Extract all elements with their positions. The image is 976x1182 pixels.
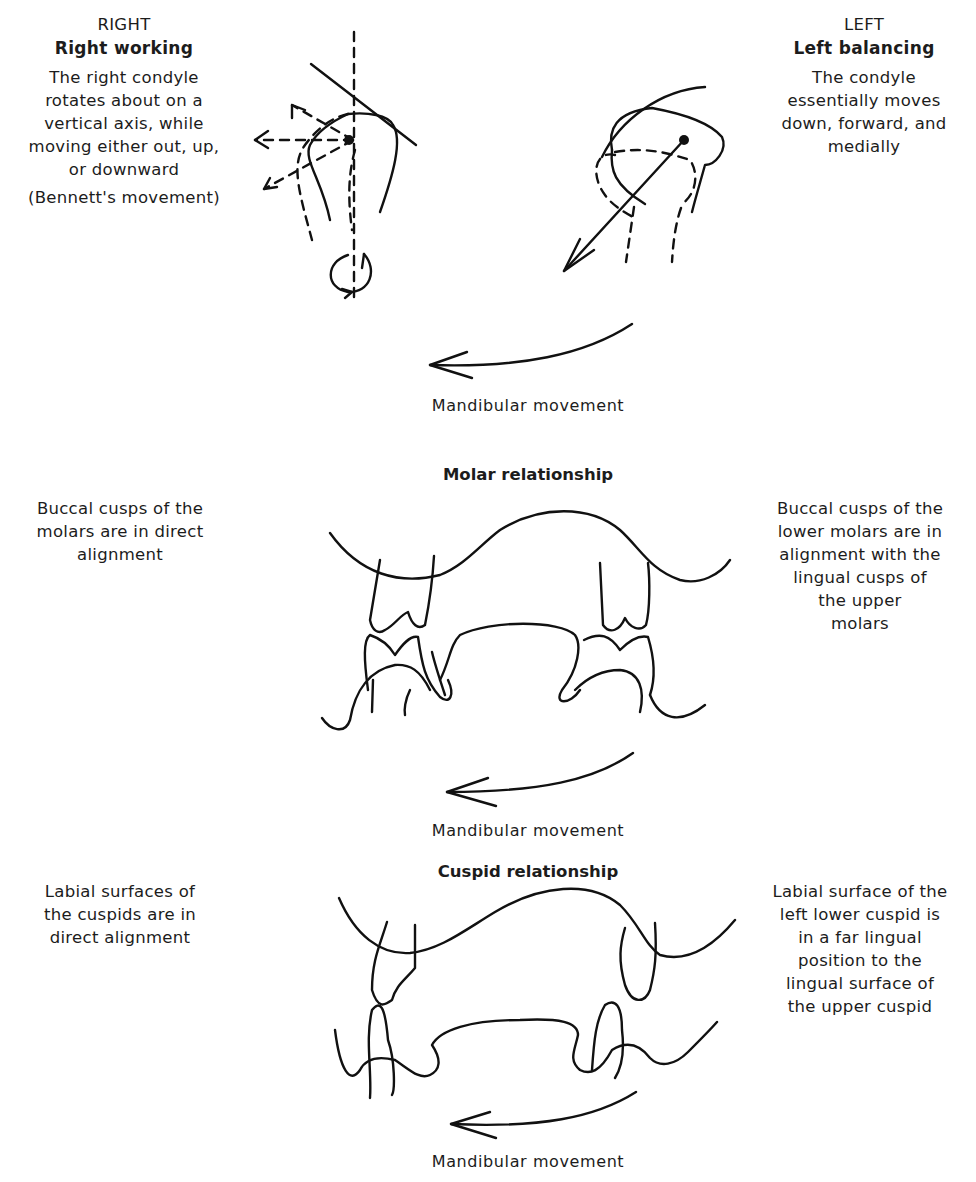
molar-right-text: Buccal cusps of the lower molars are in … (744, 497, 976, 635)
molar-right-line: Buccal cusps of the (744, 497, 976, 520)
cuspid-relationship-drawing (335, 889, 735, 1098)
right-description-line: moving either out, up, (0, 135, 248, 158)
mandibular-movement-arrow-1 (430, 324, 632, 378)
molar-left-line: alignment (0, 543, 240, 566)
cuspid-right-line: position to the (744, 949, 976, 972)
cuspid-left-line: the cuspids are in (0, 903, 240, 926)
mandibular-movement-arrow-3 (451, 1092, 636, 1138)
bennett-movement-note: (Bennett's movement) (0, 186, 248, 209)
molar-right-line: lingual cusps of (744, 566, 976, 589)
right-description-line: vertical axis, while (0, 112, 248, 135)
cuspid-right-line: in a far lingual (744, 926, 976, 949)
cuspid-right-line: the upper cuspid (744, 995, 976, 1018)
left-balancing-title: Left balancing (752, 36, 976, 60)
mandibular-movement-arrow-2 (447, 753, 633, 806)
molar-left-line: Buccal cusps of the (0, 497, 240, 520)
molar-left-text: Buccal cusps of the molars are in direct… (0, 497, 240, 566)
right-description-line: or downward (0, 158, 248, 181)
molar-right-line: molars (744, 612, 976, 635)
molar-relationship-drawing (322, 511, 730, 729)
right-description-line: rotates about on a (0, 89, 248, 112)
cuspid-right-text: Labial surface of the left lower cuspid … (744, 880, 976, 1018)
cuspid-relationship-heading: Cuspid relationship (388, 862, 668, 881)
cuspid-left-line: direct alignment (0, 926, 240, 949)
molar-right-line: the upper (744, 589, 976, 612)
right-side-label: RIGHT (0, 14, 248, 36)
left-description-line: essentially moves (752, 89, 976, 112)
cuspid-right-line: Labial surface of the (744, 880, 976, 903)
molar-left-line: molars are in direct (0, 520, 240, 543)
left-description-line: down, forward, and (752, 112, 976, 135)
mandibular-movement-caption-1: Mandibular movement (388, 396, 668, 415)
left-condyle-drawing (564, 87, 724, 271)
cuspid-right-line: left lower cuspid is (744, 903, 976, 926)
right-working-title: Right working (0, 36, 248, 60)
left-description-line: The condyle (752, 66, 976, 89)
cuspid-left-text: Labial surfaces of the cuspids are in di… (0, 880, 240, 949)
molar-relationship-heading: Molar relationship (388, 465, 668, 484)
left-condyle-label-block: LEFT Left balancing The condyle essentia… (752, 14, 976, 158)
molar-right-line: alignment with the (744, 543, 976, 566)
right-condyle-label-block: RIGHT Right working The right condyle ro… (0, 14, 248, 209)
mandibular-movement-caption-3: Mandibular movement (388, 1152, 668, 1171)
right-condyle-drawing (255, 32, 416, 302)
molar-right-line: lower molars are in (744, 520, 976, 543)
left-side-label: LEFT (752, 14, 976, 36)
right-description-line: The right condyle (0, 66, 248, 89)
cuspid-right-line: lingual surface of (744, 972, 976, 995)
cuspid-left-line: Labial surfaces of (0, 880, 240, 903)
left-description-line: medially (752, 135, 976, 158)
mandibular-movement-caption-2: Mandibular movement (388, 821, 668, 840)
